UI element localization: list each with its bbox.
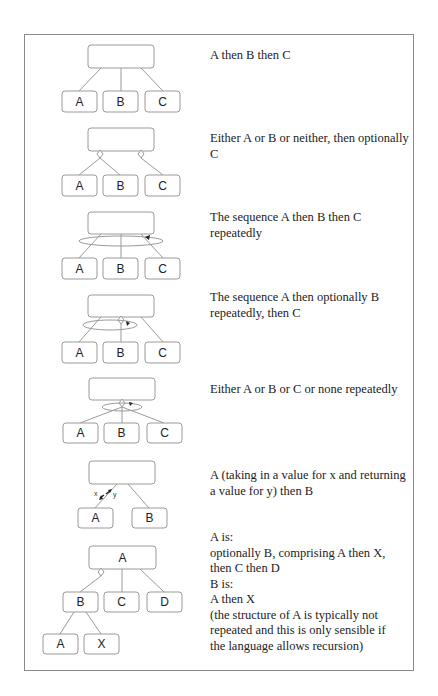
diagram-iteration-optional: A B C bbox=[62, 295, 180, 363]
description-sequence: A then B then C bbox=[210, 48, 410, 64]
child-label: A bbox=[75, 262, 83, 276]
diagram-iteration-sequence: A B C bbox=[62, 212, 180, 279]
child-label: C bbox=[158, 262, 167, 276]
child-label: C bbox=[158, 95, 167, 109]
root-label: A bbox=[118, 551, 126, 565]
diagram-iteration-selection: A B C bbox=[63, 378, 182, 443]
child-label: A bbox=[75, 346, 83, 360]
description-selection-optional: Either A or B or neither, then optionall… bbox=[210, 131, 410, 162]
child-label: D bbox=[160, 595, 169, 609]
iteration-loop-icon bbox=[83, 320, 137, 330]
child-label: B bbox=[116, 346, 124, 360]
child-label: C bbox=[158, 179, 167, 193]
child-label: C bbox=[117, 595, 126, 609]
description-iteration-optional: The sequence A then optionally B repeate… bbox=[210, 290, 410, 321]
grandchild-label: A bbox=[56, 637, 64, 651]
child-label: A bbox=[75, 179, 83, 193]
description-recursion: A is: optionally B, comprising A then X,… bbox=[210, 530, 410, 654]
root-box bbox=[88, 45, 154, 68]
child-label: C bbox=[158, 346, 167, 360]
flow-out-label: y bbox=[113, 491, 117, 499]
child-label: A bbox=[76, 426, 84, 440]
child-label: A bbox=[75, 95, 83, 109]
child-label: B bbox=[116, 179, 124, 193]
child-label: B bbox=[116, 262, 124, 276]
description-dataflow: A (taking in a value for x and returning… bbox=[210, 468, 410, 499]
diagram-dataflow: x y A B bbox=[78, 461, 167, 528]
diagram-selection-optional: A B C bbox=[62, 128, 180, 196]
diagram-sequence: A B C bbox=[62, 45, 180, 112]
description-iteration-sequence: The sequence A then B then C repeatedly bbox=[210, 210, 410, 241]
child-label: C bbox=[160, 426, 169, 440]
grandchild-label: X bbox=[97, 637, 105, 651]
diagram-recursion: A B C D A X bbox=[43, 546, 182, 654]
flow-in-label: x bbox=[94, 490, 98, 497]
child-label: A bbox=[91, 511, 99, 525]
child-label: B bbox=[117, 426, 125, 440]
child-label: B bbox=[116, 95, 124, 109]
child-label: B bbox=[145, 511, 153, 525]
child-label: B bbox=[76, 595, 84, 609]
description-iteration-selection: Either A or B or C or none repeatedly bbox=[210, 382, 415, 398]
